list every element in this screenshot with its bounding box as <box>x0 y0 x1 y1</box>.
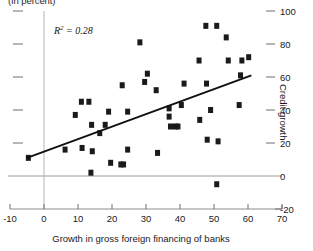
data-point <box>237 102 242 108</box>
data-point <box>175 124 180 130</box>
x-tick-label: 60 <box>243 213 254 224</box>
data-point <box>73 112 78 118</box>
data-point <box>125 147 130 153</box>
y-tick-label: 0 <box>280 171 285 182</box>
trend-line-group <box>27 75 251 158</box>
x-axis-ticks <box>10 204 282 209</box>
data-point <box>182 81 187 87</box>
left-axis-ticks <box>13 11 23 143</box>
data-point <box>179 102 184 108</box>
data-point <box>103 122 108 128</box>
data-point <box>80 145 85 151</box>
data-point <box>155 150 160 156</box>
data-point <box>120 82 125 88</box>
data-point <box>204 81 209 87</box>
x-tick-label: 20 <box>107 213 118 224</box>
data-point <box>208 107 213 113</box>
x-axis-label: Growth in gross foreign financing of ban… <box>0 233 282 244</box>
data-point <box>214 23 219 29</box>
data-points <box>26 23 251 187</box>
data-point <box>238 72 243 78</box>
data-point <box>106 109 111 115</box>
x-tick-label: 50 <box>209 213 220 224</box>
data-point <box>86 99 91 105</box>
data-point <box>197 117 202 123</box>
data-point <box>145 71 150 77</box>
data-point <box>121 161 126 167</box>
x-tick-label: 70 <box>277 213 288 224</box>
x-tick-label: 10 <box>73 213 84 224</box>
data-point <box>154 87 159 93</box>
data-point <box>142 79 147 85</box>
data-point <box>90 148 95 154</box>
data-point <box>239 58 244 64</box>
y-tick-label: -20 <box>280 204 294 215</box>
y-tick-label: 80 <box>280 39 291 50</box>
y-tick-label: 60 <box>280 72 291 83</box>
data-point <box>137 39 142 45</box>
x-tick-label: 30 <box>141 213 152 224</box>
scatter-chart: (In percent) R2 = 0.28 <box>0 0 313 251</box>
data-point <box>63 147 68 153</box>
y-tick-label: 100 <box>280 6 296 17</box>
data-point <box>168 124 173 130</box>
data-point <box>205 137 210 143</box>
data-point <box>224 34 229 40</box>
plot-area: -10010203040506070 -20020406080100 <box>0 0 313 251</box>
x-tick-label: 0 <box>41 213 46 224</box>
x-tick-label: 40 <box>175 213 186 224</box>
data-point <box>216 138 221 144</box>
y-axis-label: Credit growth <box>278 84 289 141</box>
data-point <box>108 160 113 166</box>
data-point <box>203 23 208 29</box>
axis-lines <box>8 11 282 209</box>
x-tick-labels: -10010203040506070 <box>3 213 287 224</box>
data-point <box>79 99 84 105</box>
trend-line <box>27 75 251 158</box>
x-tick-label: -10 <box>3 213 17 224</box>
data-point <box>89 122 94 128</box>
data-point <box>226 58 231 64</box>
data-point <box>214 181 219 187</box>
data-point <box>167 114 172 120</box>
data-point <box>125 109 130 115</box>
data-point <box>197 58 202 64</box>
data-point <box>88 170 93 176</box>
data-point <box>246 54 251 60</box>
